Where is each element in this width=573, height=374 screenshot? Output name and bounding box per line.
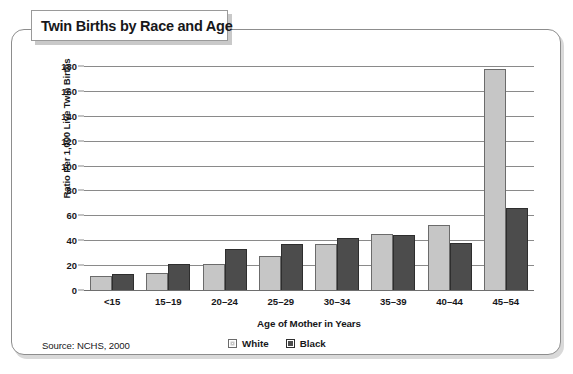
bar-group: 40–44: [428, 66, 472, 290]
bar-group: 30–34: [315, 66, 359, 290]
legend-swatch-black-icon: [286, 339, 295, 348]
bar-group: 25–29: [259, 66, 303, 290]
bar-group: 15–19: [146, 66, 190, 290]
y-tick-mark: [78, 190, 84, 191]
y-tick-label: 0: [72, 285, 77, 296]
bar-white: [315, 244, 337, 290]
y-tick-label: 160: [61, 85, 77, 96]
chart-area: Ratio Per 1,000 Live Twin Births 0204060…: [11, 29, 561, 355]
y-tick-mark: [78, 165, 84, 166]
bar-black: [281, 244, 303, 290]
plot-canvas: 020406080100120140160180<1515–1920–2425–…: [84, 66, 534, 290]
y-tick-mark: [78, 240, 84, 241]
bar-black: [225, 249, 247, 290]
bar-white: [90, 276, 112, 290]
legend: White Black: [228, 338, 326, 349]
bar-white: [146, 273, 168, 290]
x-axis-title: Age of Mother in Years: [84, 318, 534, 329]
bar-white: [428, 225, 450, 290]
legend-label-black: Black: [300, 338, 326, 349]
y-tick-mark: [78, 115, 84, 116]
legend-item-white: White: [228, 338, 269, 349]
bar-white: [259, 256, 281, 290]
bar-black: [506, 208, 528, 290]
bar-white: [371, 234, 393, 290]
bar-group: 45–54: [484, 66, 528, 290]
bar-group: 35–39: [371, 66, 415, 290]
y-tick-label: 80: [67, 185, 77, 196]
source-note: Source: NCHS, 2000: [42, 340, 130, 351]
y-tick-mark: [78, 215, 84, 216]
x-axis-line: [84, 290, 534, 291]
bar-white: [484, 69, 506, 291]
legend-label-white: White: [242, 338, 269, 349]
x-tick-label: 45–54: [471, 296, 541, 307]
bar-group: 20–24: [203, 66, 247, 290]
y-tick-label: 100: [61, 160, 77, 171]
y-tick-label: 40: [67, 235, 77, 246]
y-tick-mark: [78, 290, 84, 291]
y-tick-mark: [78, 265, 84, 266]
y-tick-mark: [78, 140, 84, 141]
y-tick-mark: [78, 66, 84, 67]
bar-white: [203, 264, 225, 290]
y-tick-label: 60: [67, 210, 77, 221]
y-tick-label: 180: [61, 61, 77, 72]
y-tick-mark: [78, 90, 84, 91]
bar-black: [337, 238, 359, 290]
y-tick-label: 20: [67, 260, 77, 271]
bar-black: [112, 274, 134, 290]
bar-black: [168, 264, 190, 290]
chart-screenshot: Twin Births by Race and Age Ratio Per 1,…: [0, 0, 573, 374]
bar-black: [450, 243, 472, 290]
bar-black: [393, 235, 415, 290]
legend-item-black: Black: [286, 338, 326, 349]
y-tick-label: 120: [61, 135, 77, 146]
legend-swatch-white-icon: [228, 339, 237, 348]
bar-group: <15: [90, 66, 134, 290]
y-tick-label: 140: [61, 110, 77, 121]
